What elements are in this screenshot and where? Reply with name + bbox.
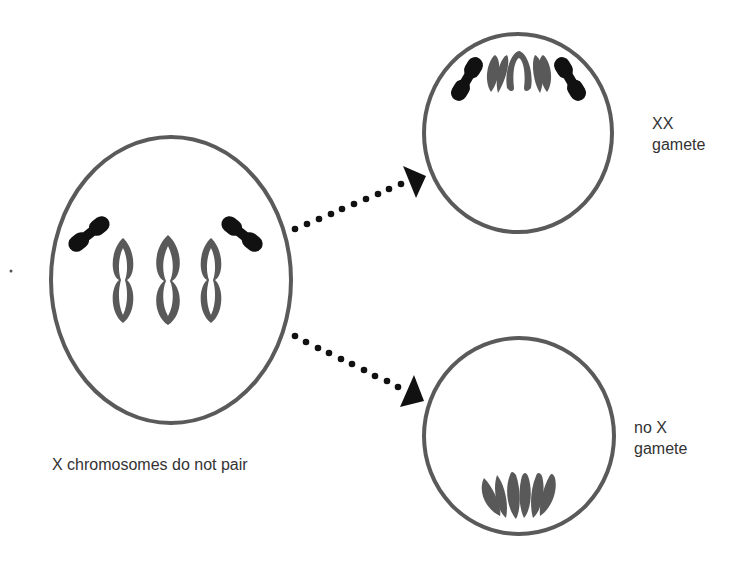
- x-chromosome-left: [65, 213, 113, 255]
- xx-gamete-label-line2: gamete: [652, 136, 705, 153]
- no-x-gamete-label-line1: no X: [634, 419, 667, 436]
- arrow-to-no-x-gamete: [292, 333, 424, 407]
- autosome-pair-3: [201, 238, 222, 323]
- autosome-pair-1: [113, 238, 134, 323]
- xx-gamete-membrane: [424, 34, 612, 232]
- arrow-to-xx-gamete: [292, 166, 426, 232]
- parent-cell-caption: X chromosomes do not pair: [52, 456, 248, 473]
- no-x-gamete-label-line2: gamete: [634, 440, 687, 457]
- arrowhead-icon: [403, 166, 426, 198]
- nondisjunction-diagram: X chromosomes do not pair: [0, 0, 741, 568]
- parent-cell: [51, 137, 291, 423]
- autosome-pair-2: [156, 235, 180, 325]
- no-x-gamete-cell: [424, 338, 614, 534]
- arrowhead-icon: [400, 375, 424, 407]
- autosomes: [487, 51, 551, 93]
- speck: [10, 270, 13, 273]
- autosomes: [482, 472, 556, 519]
- xx-gamete-label-line1: XX: [652, 115, 674, 132]
- xx-gamete-cell: [424, 34, 612, 232]
- x-chromosome-right: [218, 213, 266, 255]
